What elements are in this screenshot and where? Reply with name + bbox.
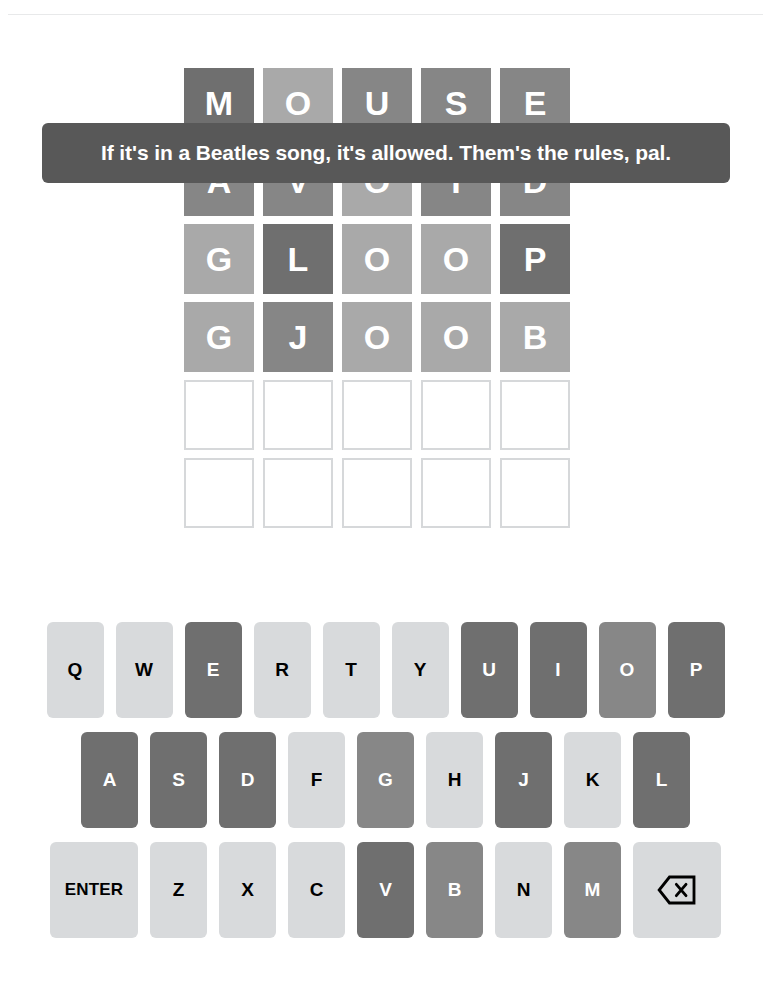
key-d[interactable]: D	[219, 732, 276, 828]
board-row-empty	[184, 458, 588, 528]
board-row: GLOOP	[184, 224, 588, 294]
board-tile-empty	[263, 380, 333, 450]
header-divider	[8, 14, 763, 15]
key-n[interactable]: N	[495, 842, 552, 938]
key-h[interactable]: H	[426, 732, 483, 828]
keyboard-row: ENTERZXCVBNM	[50, 842, 721, 938]
key-t[interactable]: T	[323, 622, 380, 718]
board-tile: P	[500, 224, 570, 294]
key-m[interactable]: M	[564, 842, 621, 938]
key-k[interactable]: K	[564, 732, 621, 828]
board-tile-empty	[342, 458, 412, 528]
key-p[interactable]: P	[668, 622, 725, 718]
key-label: Y	[414, 659, 427, 681]
board-row: GJOOB	[184, 302, 588, 372]
key-label: G	[378, 769, 393, 791]
key-j[interactable]: J	[495, 732, 552, 828]
board-tile-empty	[421, 380, 491, 450]
board-tile: O	[421, 302, 491, 372]
key-label: L	[656, 769, 668, 791]
key-a[interactable]: A	[81, 732, 138, 828]
key-label: V	[379, 879, 392, 901]
board-tile: G	[184, 224, 254, 294]
key-g[interactable]: G	[357, 732, 414, 828]
wordle-app: MOUSEAVOIDGLOOPGJOOB If it's in a Beatle…	[0, 0, 771, 1004]
key-label: S	[172, 769, 185, 791]
board-tile-empty	[263, 458, 333, 528]
key-c[interactable]: C	[288, 842, 345, 938]
board-tile-empty	[421, 458, 491, 528]
key-label: C	[310, 879, 324, 901]
key-label: A	[103, 769, 117, 791]
key-label: N	[517, 879, 531, 901]
key-label: K	[586, 769, 600, 791]
key-label: O	[620, 659, 635, 681]
key-label: D	[241, 769, 255, 791]
key-label: H	[448, 769, 462, 791]
key-label: W	[135, 659, 153, 681]
key-f[interactable]: F	[288, 732, 345, 828]
board-tile: B	[500, 302, 570, 372]
board-tile: O	[421, 224, 491, 294]
key-v[interactable]: V	[357, 842, 414, 938]
key-label: P	[690, 659, 703, 681]
board-tile: L	[263, 224, 333, 294]
key-label: I	[555, 659, 560, 681]
key-label: R	[275, 659, 289, 681]
board-row-empty	[184, 380, 588, 450]
key-label: Z	[173, 879, 185, 901]
board-tile-empty	[184, 458, 254, 528]
key-x[interactable]: X	[219, 842, 276, 938]
key-u[interactable]: U	[461, 622, 518, 718]
board-tile: G	[184, 302, 254, 372]
key-y[interactable]: Y	[392, 622, 449, 718]
key-label: T	[345, 659, 357, 681]
key-z[interactable]: Z	[150, 842, 207, 938]
key-w[interactable]: W	[116, 622, 173, 718]
board-tile: J	[263, 302, 333, 372]
key-s[interactable]: S	[150, 732, 207, 828]
key-o[interactable]: O	[599, 622, 656, 718]
board-tile: O	[342, 224, 412, 294]
board-tile-empty	[184, 380, 254, 450]
keyboard-row: QWERTYUIOP	[47, 622, 725, 718]
keyboard-row: ASDFGHJKL	[81, 732, 690, 828]
key-backspace[interactable]	[633, 842, 721, 938]
backspace-icon	[657, 875, 697, 905]
board-tile-empty	[500, 458, 570, 528]
key-label: F	[311, 769, 323, 791]
toast-message: If it's in a Beatles song, it's allowed.…	[101, 141, 671, 165]
virtual-keyboard: QWERTYUIOPASDFGHJKLENTERZXCVBNM	[0, 622, 771, 938]
key-b[interactable]: B	[426, 842, 483, 938]
board-tile-empty	[500, 380, 570, 450]
board-tile-empty	[342, 380, 412, 450]
key-q[interactable]: Q	[47, 622, 104, 718]
board-tile: O	[342, 302, 412, 372]
key-label: U	[482, 659, 496, 681]
key-label: ENTER	[65, 880, 124, 900]
key-enter[interactable]: ENTER	[50, 842, 138, 938]
key-label: M	[585, 879, 601, 901]
key-label: Q	[68, 659, 83, 681]
key-label: E	[207, 659, 220, 681]
key-label: X	[241, 879, 254, 901]
toast-notification: If it's in a Beatles song, it's allowed.…	[42, 123, 730, 183]
key-l[interactable]: L	[633, 732, 690, 828]
key-label: B	[448, 879, 462, 901]
key-i[interactable]: I	[530, 622, 587, 718]
key-e[interactable]: E	[185, 622, 242, 718]
key-label: J	[518, 769, 529, 791]
key-r[interactable]: R	[254, 622, 311, 718]
